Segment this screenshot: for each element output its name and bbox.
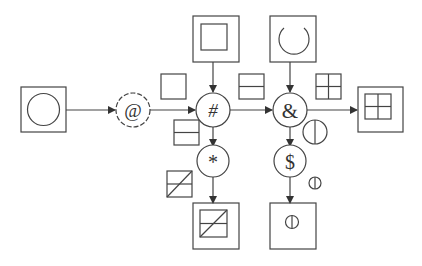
panel-input-top-1 [193,16,239,62]
operator-star-symbol: * [208,151,218,173]
hint-hash-amp [239,74,264,99]
panel-input-left [21,87,66,132]
panel-output-bottom-1 [193,203,239,249]
panel-output-bottom-2 [270,203,316,249]
operator-at-symbol: @ [124,100,142,121]
operator-at: @ [116,93,150,127]
hint-amp-down [303,120,327,144]
operator-hash: # [196,93,230,127]
panel-output-right [358,87,403,132]
hint-at-hash [161,74,186,99]
hint-dollar-down [309,177,321,189]
panel-input-top-2 [270,16,316,62]
operator-hash-symbol: # [208,100,218,121]
hint-star-down [167,171,192,197]
operator-star: * [197,145,229,177]
operator-amp-symbol: & [282,99,298,123]
edges [66,62,357,203]
operator-amp: & [273,93,307,127]
hint-amp-right [316,74,341,99]
operator-dollar: $ [274,145,306,177]
operator-dollar-symbol: $ [285,151,295,173]
puzzle-diagram: @ # & * $ [0,0,422,266]
hint-hash-down [174,120,199,145]
